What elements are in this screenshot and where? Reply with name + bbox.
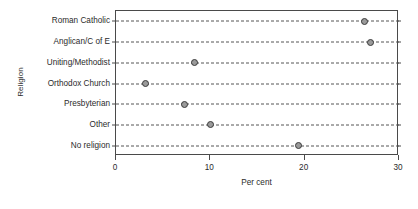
y-axis-tick-right (397, 104, 401, 105)
category-label-uniting-methodist: Uniting/Methodist (22, 57, 110, 66)
data-point (191, 59, 198, 66)
x-axis-tick (398, 155, 399, 160)
x-axis-tick-label: 10 (205, 163, 214, 172)
y-axis-tick-right (397, 42, 401, 43)
gridline (116, 42, 399, 43)
category-label-anglican-c-of-e: Anglican/C of E (22, 37, 110, 46)
gridline (116, 62, 399, 63)
gridline (116, 145, 399, 146)
y-axis-tick (112, 104, 116, 105)
category-label-roman-catholic: Roman Catholic (22, 16, 110, 25)
category-label-other: Other (22, 119, 110, 128)
x-axis-tick-label: 0 (113, 163, 118, 172)
gridline (116, 124, 399, 125)
category-label-presbyterian: Presbyterian (22, 99, 110, 108)
y-axis-tick (112, 62, 116, 63)
y-axis-tick-right (397, 83, 401, 84)
religion-percent-dot-chart: Religion Roman CatholicAnglican/C of EUn… (0, 0, 418, 209)
plot-area (115, 10, 398, 155)
y-axis-tick-right (397, 21, 401, 22)
category-label-orthodox-church: Orthodox Church (22, 78, 110, 87)
gridline (116, 104, 399, 105)
x-axis-tick (304, 155, 305, 160)
y-axis-tick (112, 83, 116, 84)
y-axis-tick-right (397, 62, 401, 63)
y-axis-tick (112, 21, 116, 22)
category-label-no-religion: No religion (22, 140, 110, 149)
data-point (367, 39, 374, 46)
gridline (116, 21, 399, 22)
data-point (295, 142, 302, 149)
x-axis-tick (115, 155, 116, 160)
x-axis-title: Per cent (115, 178, 398, 187)
y-axis-category-labels: Roman CatholicAnglican/C of EUniting/Met… (22, 10, 110, 155)
y-axis-tick (112, 124, 116, 125)
data-point (142, 80, 149, 87)
y-axis-tick-right (397, 145, 401, 146)
data-point (361, 18, 368, 25)
x-axis-tick (209, 155, 210, 160)
y-axis-tick-right (397, 124, 401, 125)
x-axis-tick-label: 20 (299, 163, 308, 172)
y-axis-tick (112, 42, 116, 43)
data-point (207, 121, 214, 128)
data-point (181, 101, 188, 108)
y-axis-tick (112, 145, 116, 146)
x-axis-tick-label: 30 (393, 163, 402, 172)
gridline (116, 83, 399, 84)
